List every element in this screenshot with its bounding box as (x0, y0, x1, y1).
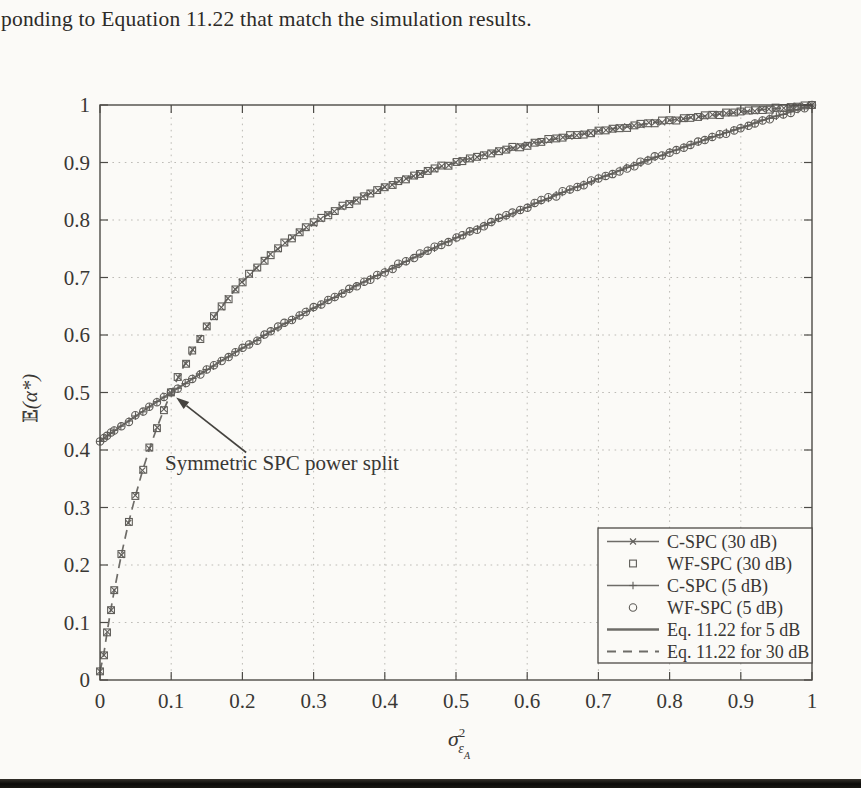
svg-text:0.6: 0.6 (64, 323, 90, 347)
svg-text:0.5: 0.5 (64, 381, 90, 405)
svg-text:WF-SPC (5 dB): WF-SPC (5 dB) (667, 598, 783, 619)
svg-text:0: 0 (80, 668, 91, 692)
annotation: Symmetric SPC power split (165, 398, 399, 476)
svg-text:0.4: 0.4 (372, 689, 399, 713)
svg-text:0.9: 0.9 (64, 151, 90, 175)
svg-text:0.7: 0.7 (585, 689, 611, 713)
svg-text:E(α*): E(α*) (18, 374, 42, 422)
figure-chart: 00.10.20.30.40.50.60.70.80.9100.10.20.30… (0, 60, 861, 772)
svg-text:Eq. 11.22 for 5 dB: Eq. 11.22 for 5 dB (667, 620, 800, 640)
svg-text:1: 1 (80, 93, 91, 117)
svg-text:0.8: 0.8 (64, 208, 90, 232)
svg-text:0.8: 0.8 (656, 689, 682, 713)
svg-text:0: 0 (95, 689, 106, 713)
svg-text:0.2: 0.2 (229, 689, 255, 713)
svg-text:0.9: 0.9 (728, 689, 754, 713)
svg-text:0.4: 0.4 (64, 438, 91, 462)
svg-text:0.7: 0.7 (64, 266, 90, 290)
svg-text:0.1: 0.1 (64, 611, 90, 635)
y-axis-label: E(α*) (18, 374, 42, 422)
svg-text:0.1: 0.1 (158, 689, 184, 713)
svg-text:0.3: 0.3 (300, 689, 326, 713)
svg-text:C-SPC (5 dB): C-SPC (5 dB) (667, 576, 768, 597)
svg-text:Eq. 11.22 for 30 dB: Eq. 11.22 for 30 dB (667, 642, 809, 662)
svg-text:σ2εA: σ2εA (448, 725, 471, 761)
svg-text:0.3: 0.3 (64, 496, 90, 520)
svg-text:Symmetric SPC power split: Symmetric SPC power split (165, 451, 399, 475)
body-text-line: ponding to Equation 11.22 that match the… (1, 7, 532, 32)
svg-text:C-SPC (30 dB): C-SPC (30 dB) (667, 532, 777, 553)
legend: C-SPC (30 dB)WF-SPC (30 dB)C-SPC (5 dB)W… (598, 528, 812, 663)
svg-text:WF-SPC (30 dB): WF-SPC (30 dB) (667, 554, 792, 575)
page-bottom-black-bar (0, 779, 861, 788)
svg-text:0.6: 0.6 (514, 689, 540, 713)
svg-text:1: 1 (807, 689, 818, 713)
svg-text:0.5: 0.5 (443, 689, 469, 713)
svg-text:0.2: 0.2 (64, 553, 90, 577)
x-axis-label: σ2εA (448, 725, 471, 761)
